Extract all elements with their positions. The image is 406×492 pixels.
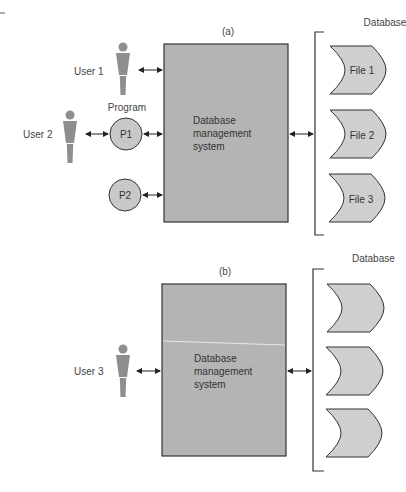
program-p1-label: P1 xyxy=(120,129,133,140)
file-3-label: File 3 xyxy=(349,194,374,205)
user-3-person-icon xyxy=(116,345,130,398)
panel-b: (b) Database Database management system … xyxy=(74,253,395,471)
file-1: File 1 xyxy=(330,46,386,94)
panel-b-file-3 xyxy=(326,409,382,457)
file-1-label: File 1 xyxy=(350,65,375,76)
panel-b-database-bracket xyxy=(313,269,324,471)
user-1-person-icon xyxy=(116,43,130,96)
panel-b-dbms-line-3: system xyxy=(194,379,226,390)
panel-a: (a) Database Database management system … xyxy=(23,17,406,235)
panel-b-caption: (b) xyxy=(219,266,231,277)
file-2: File 2 xyxy=(330,110,386,158)
dbms-diagram: (a) Database Database management system … xyxy=(0,0,406,492)
panel-a-caption: (a) xyxy=(222,26,234,37)
panel-b-dbms-line-2: management xyxy=(194,366,253,377)
panel-a-database-label: Database xyxy=(364,17,406,28)
program-p2-label: P2 xyxy=(119,190,132,201)
panel-b-file-1 xyxy=(327,284,384,332)
user-2-person-icon xyxy=(63,111,77,164)
panel-a-dbms-line-2: management xyxy=(193,128,252,139)
file-2-label: File 2 xyxy=(350,130,375,141)
program-label: Program xyxy=(108,102,146,113)
user-3-label: User 3 xyxy=(74,366,104,377)
panel-b-database-label: Database xyxy=(352,253,395,264)
panel-a-database-bracket xyxy=(315,32,324,235)
panel-b-dbms-line-1: Database xyxy=(194,353,237,364)
file-3: File 3 xyxy=(329,174,385,222)
user-2-label: User 2 xyxy=(23,129,53,140)
user-1-label: User 1 xyxy=(74,66,104,77)
panel-a-dbms-line-3: system xyxy=(193,141,225,152)
panel-b-file-2 xyxy=(326,347,383,395)
panel-a-dbms-line-1: Database xyxy=(193,115,236,126)
